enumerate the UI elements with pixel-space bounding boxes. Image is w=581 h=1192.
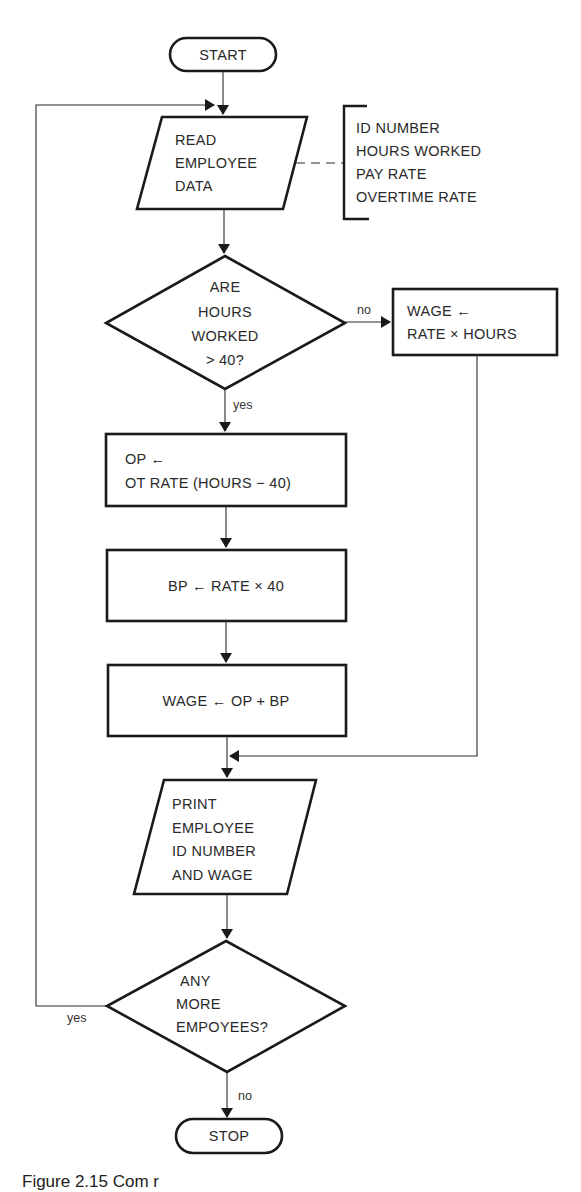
print-employee-wage-io: PRINT EMPLOYEE ID NUMBER AND WAGE [134,780,316,894]
print-line-3: ID NUMBER [172,843,256,859]
annotation-line-2: HOURS WORKED [356,143,481,159]
annotation-line-3: PAY RATE [356,166,427,182]
wage-total-line-1: WAGE ← OP + BP [162,693,289,709]
decision-more-line-2: MORE [176,996,221,1012]
decision-hours-line-2: HOURS [198,304,252,320]
annotation-line-4: OVERTIME RATE [356,189,477,205]
start-terminal: START [170,38,276,71]
annotation-line-1: ID NUMBER [356,120,440,136]
more-yes-label: yes [67,1011,86,1025]
op-line-2: OT RATE (HOURS − 40) [125,475,291,491]
read-employee-data-io: READ EMPLOYEE DATA [137,117,307,209]
wage-total-process: WAGE ← OP + BP [108,665,346,736]
stop-label: STOP [209,1128,249,1144]
overtime-pay-process: OP ← OT RATE (HOURS − 40) [106,434,346,506]
print-line-1: PRINT [172,796,217,812]
decision-more-line-1: ANY [180,973,211,989]
figure-caption: Figure 2.15 Com r [22,1172,159,1192]
read-line-2: EMPLOYEE [175,155,257,171]
more-employees-decision: ANY MORE EMPOYEES? [107,941,345,1072]
start-label: START [199,47,247,63]
decision-hours-line-1: ARE [210,279,241,295]
more-no-label: no [238,1089,252,1103]
hours-yes-label: yes [233,398,252,412]
read-line-3: DATA [175,178,213,194]
op-line-1: OP ← [125,451,165,467]
decision-hours-line-3: WORKED [191,328,258,344]
read-line-1: READ [175,132,217,148]
decision-hours-line-4: > 40? [206,352,244,368]
wage-simple-line-2: RATE × HOURS [407,326,517,342]
base-pay-process: BP ← RATE × 40 [107,550,346,621]
wage-rate-times-hours-process: WAGE ← RATE × HOURS [393,289,557,355]
print-line-4: AND WAGE [172,867,253,883]
input-fields-annotation: ID NUMBER HOURS WORKED PAY RATE OVERTIME… [344,106,481,219]
wage-simple-line-1: WAGE ← [407,303,471,319]
print-line-2: EMPLOYEE [172,820,254,836]
decision-more-line-3: EMPOYEES? [176,1019,268,1035]
hours-no-label: no [357,303,371,317]
stop-terminal: STOP [176,1119,282,1153]
bp-line-1: BP ← RATE × 40 [168,578,284,594]
hours-over-40-decision: ARE HOURS WORKED > 40? [106,256,345,389]
